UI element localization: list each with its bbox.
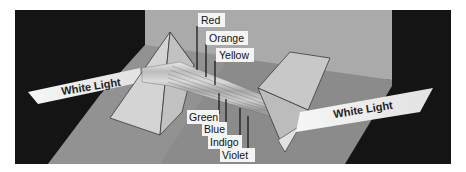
label-indigo: Indigo [208, 135, 242, 149]
svg-text:Orange: Orange [209, 32, 244, 44]
svg-text:Violet: Violet [222, 149, 248, 161]
label-orange: Orange [206, 31, 248, 45]
label-violet: Violet [220, 148, 255, 162]
svg-text:Red: Red [201, 14, 220, 26]
label-green: Green [187, 110, 219, 124]
svg-text:Yellow: Yellow [219, 49, 249, 61]
svg-text:Blue: Blue [204, 123, 225, 135]
prism-dispersion-diagram: White Light White Light Red Orange Y [0, 0, 466, 172]
label-yellow: Yellow [216, 48, 254, 62]
svg-text:Indigo: Indigo [210, 136, 239, 148]
label-blue: Blue [202, 122, 227, 136]
svg-text:Green: Green [189, 111, 218, 123]
label-red: Red [198, 13, 225, 27]
